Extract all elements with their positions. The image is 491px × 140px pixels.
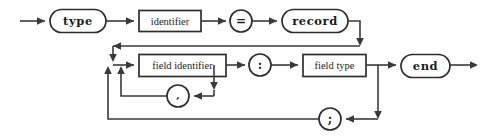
arrow-exit-icon xyxy=(470,61,478,69)
arrow-comma-return-up-icon xyxy=(117,66,125,74)
arrow-into-type-icon xyxy=(37,17,45,25)
arrow-into-field-type-icon xyxy=(290,61,298,69)
node-comma-label: , xyxy=(176,89,179,101)
node-field-identifier-label: field identifier xyxy=(152,60,213,71)
arrow-merge-down-icon xyxy=(109,54,117,62)
arrow-into-comma-icon xyxy=(194,92,202,100)
arrow-semicolon-branch-down-icon xyxy=(374,111,382,119)
arrow-into-equals-icon xyxy=(218,17,226,25)
track-record-down xyxy=(348,21,360,40)
arrow-comma-branch-down-icon xyxy=(210,82,218,90)
node-equals-label: = xyxy=(236,14,246,28)
arrow-into-field-identifier-icon xyxy=(126,61,134,69)
node-identifier-label: identifier xyxy=(151,16,190,27)
node-type-label: type xyxy=(63,14,93,28)
node-record-label: record xyxy=(292,14,338,28)
arrow-down-to-rail-icon xyxy=(356,38,364,46)
arrow-into-end-icon xyxy=(388,61,396,69)
node-end-label: end xyxy=(413,59,439,73)
railroad-diagram: type identifier = record xyxy=(0,0,491,140)
arrow-into-semicolon-icon xyxy=(346,115,354,123)
node-field-type-label: field type xyxy=(315,60,355,71)
node-colon-label: : xyxy=(258,58,262,72)
arrow-semicolon-return-up-icon xyxy=(104,66,112,74)
railroad-diagram-canvas: type identifier = record xyxy=(0,0,491,140)
node-semicolon-label: ; xyxy=(328,112,332,126)
arrow-rail-left-icon xyxy=(113,42,121,50)
arrow-into-record-icon xyxy=(269,17,277,25)
arrow-into-colon-icon xyxy=(237,61,245,69)
arrow-into-identifier-icon xyxy=(126,17,134,25)
